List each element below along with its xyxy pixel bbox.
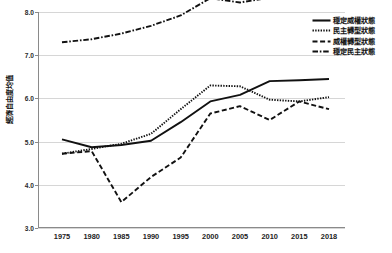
series-line-1	[62, 79, 329, 147]
legend-line-swatch	[312, 16, 331, 25]
x-axis-tick-label: 2018	[312, 232, 346, 241]
series-line-4	[62, 0, 329, 42]
legend-line-swatch	[312, 26, 331, 35]
legend-item-label: 穩定民主狀態	[333, 48, 375, 55]
legend-item[interactable]: 穩定民主狀態	[312, 47, 392, 58]
series-line-3	[62, 101, 329, 202]
gridline	[38, 228, 345, 229]
y-axis-tick-label: 3.0	[12, 225, 34, 232]
y-axis-tick-label: 5.0	[12, 138, 34, 145]
legend: 穩定威權狀態民主轉型狀態威權轉型狀態穩定民主狀態	[312, 15, 392, 57]
legend-item-label: 威權轉型狀態	[333, 38, 375, 45]
y-axis-tick-label: 8.0	[12, 9, 34, 16]
line-chart: 經濟自由度均值 8.07.06.05.04.03.0 1975198019851…	[0, 0, 392, 253]
y-axis-tick-label: 4.0	[12, 181, 34, 188]
series-line-2	[62, 85, 329, 153]
y-axis-tick	[35, 228, 38, 229]
legend-item[interactable]: 民主轉型狀態	[312, 26, 392, 37]
legend-item-label: 民主轉型狀態	[333, 27, 375, 34]
y-axis-tick-label: 7.0	[12, 52, 34, 59]
y-axis-tick-label: 6.0	[12, 95, 34, 102]
x-axis-tick-labels: 1975198019851990199520002005201020152018	[38, 232, 345, 246]
plot-area	[38, 12, 345, 228]
series-lines	[38, 12, 345, 228]
y-axis-tick-labels: 8.07.06.05.04.03.0	[10, 0, 34, 253]
legend-line-swatch	[312, 47, 331, 56]
legend-item[interactable]: 穩定威權狀態	[312, 15, 392, 26]
legend-item-label: 穩定威權狀態	[333, 17, 375, 24]
legend-line-swatch	[312, 37, 331, 46]
legend-item[interactable]: 威權轉型狀態	[312, 36, 392, 47]
